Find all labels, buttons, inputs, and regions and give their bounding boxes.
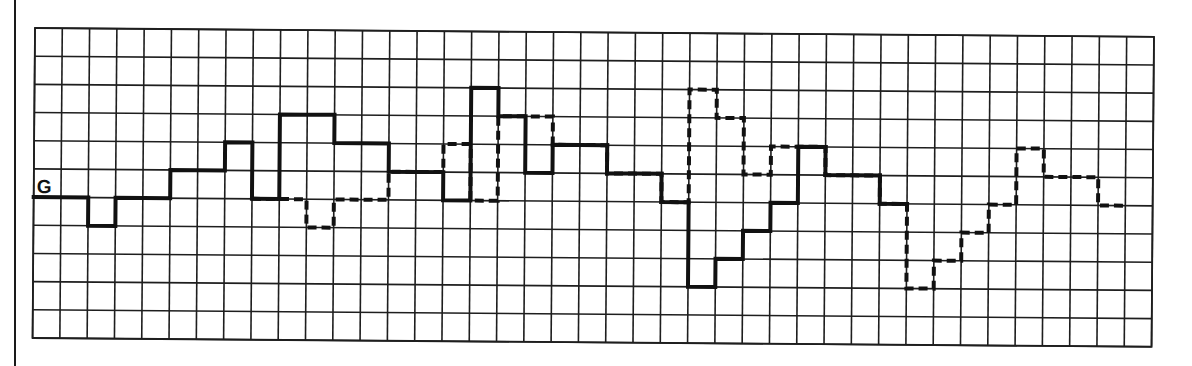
grid-row-line [34, 113, 1153, 122]
grid-column-line [387, 31, 389, 341]
grid-column-line [1124, 37, 1126, 347]
grid-column-line [224, 30, 226, 340]
grid-row-line [33, 310, 1152, 319]
grid-column-line [606, 33, 608, 343]
grid-column-line [333, 30, 335, 340]
grid-row-line [33, 225, 1152, 234]
grid-column-line [824, 34, 826, 344]
grid-column-line [1015, 36, 1017, 346]
grid-column-line [360, 31, 362, 341]
grid-column-line [305, 30, 307, 340]
grid-column-line [633, 33, 635, 343]
grid-column-line [142, 29, 144, 339]
grid-row-line [35, 84, 1154, 93]
grid-column-line [933, 35, 935, 345]
grid-column-line [415, 31, 417, 341]
grid-column-line [87, 28, 89, 338]
grid-border [33, 28, 1154, 347]
grid-row-line [33, 253, 1152, 262]
grid-column-line [196, 29, 198, 339]
grid-column-line [906, 35, 908, 345]
grid-column-line [769, 34, 771, 344]
grid-column-line [988, 36, 990, 346]
grid-column-line [715, 33, 717, 343]
baseline-label-g: G [37, 176, 52, 197]
grid-column-line [114, 29, 116, 339]
grid-row-line [33, 282, 1152, 291]
grid-column-line [1097, 36, 1099, 346]
grid-column-line [60, 28, 62, 338]
grid-column-line [851, 34, 853, 344]
grid [33, 28, 1154, 347]
grid-column-line [960, 35, 962, 345]
grid-row-line [35, 56, 1154, 65]
chart-canvas: G [0, 0, 1192, 366]
grid-row-line [34, 197, 1153, 206]
grid-column-line [551, 32, 553, 342]
grid-column-line [742, 34, 744, 344]
grid-column-line [524, 32, 526, 342]
grid-column-line [1070, 36, 1072, 346]
grid-column-line [578, 32, 580, 342]
grid-column-line [1042, 36, 1044, 346]
step-chart: G [0, 0, 1192, 366]
